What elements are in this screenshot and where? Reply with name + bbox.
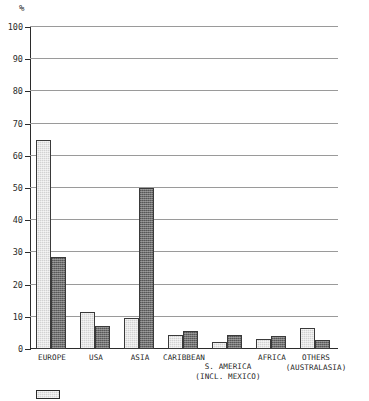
chart-legend	[36, 390, 336, 401]
gridline-40	[30, 219, 338, 220]
y-tick-label-70: 70	[1, 120, 23, 129]
bar	[300, 328, 315, 349]
y-tick-label-50: 50	[1, 184, 23, 193]
bar	[95, 326, 110, 349]
bar	[124, 318, 139, 349]
legend-swatch	[36, 390, 60, 399]
y-tick-label-wrap-60: 60	[0, 152, 23, 161]
bar	[212, 342, 227, 349]
bar	[183, 331, 198, 349]
plot-area	[30, 27, 338, 349]
y-tick-label-10: 10	[1, 313, 23, 322]
y-tick-label-wrap-70: 70	[0, 120, 23, 129]
gridline-20	[30, 284, 338, 285]
category-label: OTHERS(AUSTRALASIA)	[266, 353, 366, 372]
legend-item	[36, 390, 64, 399]
bar	[271, 336, 286, 349]
bar-chart: % 0102030405060708090100 EUROPEUSAASIACA…	[0, 0, 369, 401]
y-tick-label-wrap-100: 100	[0, 23, 23, 32]
bar	[51, 257, 66, 349]
category-label-line2: (AUSTRALASIA)	[266, 363, 366, 373]
gridline-50	[30, 187, 338, 188]
y-tick-label-60: 60	[1, 152, 23, 161]
y-tick-label-wrap-90: 90	[0, 55, 23, 64]
bar	[315, 340, 330, 349]
gridline-30	[30, 251, 338, 252]
bar	[227, 335, 242, 349]
category-label-line1: OTHERS	[302, 353, 330, 362]
y-tick-label-20: 20	[1, 281, 23, 290]
category-label-line1: S. AMERICA	[205, 362, 252, 371]
y-tick-label-wrap-40: 40	[0, 216, 23, 225]
y-tick-label-100: 100	[1, 23, 23, 32]
y-tick-label-90: 90	[1, 55, 23, 64]
gridline-60	[30, 155, 338, 156]
y-axis-unit-label: %	[19, 3, 24, 13]
gridline-10	[30, 316, 338, 317]
gridline-90	[30, 58, 338, 59]
bar	[139, 188, 154, 349]
y-tick-label-wrap-50: 50	[0, 184, 23, 193]
y-tick-label-wrap-30: 30	[0, 248, 23, 257]
gridline-70	[30, 123, 338, 124]
bar	[80, 312, 95, 349]
category-label-line1: CARIBBEAN	[163, 353, 205, 362]
y-tick-label-80: 80	[1, 87, 23, 96]
y-tick-mark-0	[25, 349, 30, 350]
y-tick-label-wrap-20: 20	[0, 281, 23, 290]
bar	[256, 339, 271, 349]
y-tick-label-wrap-10: 10	[0, 313, 23, 322]
category-label-line2: (INCL. MEXICO)	[178, 372, 278, 382]
gridline-80	[30, 90, 338, 91]
bar	[36, 140, 51, 349]
y-tick-label-wrap-80: 80	[0, 87, 23, 96]
y-tick-label-40: 40	[1, 216, 23, 225]
gridline-100	[30, 26, 338, 27]
category-label: S. AMERICA(INCL. MEXICO)	[178, 362, 278, 381]
bar	[168, 335, 183, 349]
y-tick-label-30: 30	[1, 248, 23, 257]
